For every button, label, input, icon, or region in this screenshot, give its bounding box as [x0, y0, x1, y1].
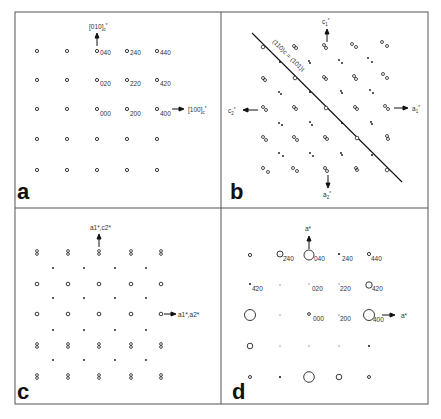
arrow-right-icon	[172, 107, 184, 111]
spot-label: 000	[100, 110, 111, 117]
spot-label: 420	[372, 285, 383, 292]
spot-label: 200	[130, 110, 141, 117]
axis-label-a1: a1*	[412, 105, 420, 114]
spot-label: 400	[373, 316, 384, 323]
panel-c-single-spots	[35, 282, 163, 316]
panel-letter-d: d	[232, 379, 245, 404]
spot-label: 2̄40	[283, 255, 294, 262]
panel-a-spot-labels: 040 240 440 020 220 420 000 200 400	[100, 49, 171, 117]
spot-label: 440	[160, 49, 171, 56]
panel-letter-c: c	[17, 379, 29, 404]
spot-label: 220	[130, 80, 141, 87]
arrow-up-icon	[325, 29, 329, 42]
axis-label-a1-c2: a1*,c2*	[90, 224, 111, 231]
panel-d: 2̄40 040 240 440 4̄20 020 220 420 000 20…	[232, 225, 408, 404]
spot-label: 220	[340, 285, 351, 292]
spot-label: 020	[312, 285, 323, 292]
arrow-up-icon	[97, 234, 101, 247]
panel-a: 040 240 440 020 220 420 000 200 400 [010…	[17, 23, 207, 204]
spot-label: 4̄20	[252, 285, 263, 292]
spot-label: 020	[100, 80, 111, 87]
panel-letter-b: b	[230, 179, 243, 204]
spot-label: 240	[342, 255, 353, 262]
spot-label: 040	[314, 255, 325, 262]
arrow-right-icon	[382, 313, 395, 317]
axis-label-a-star-right: a*	[401, 312, 408, 319]
figure-frame	[15, 12, 428, 404]
arrow-up-icon	[307, 236, 311, 249]
spot-label: 040	[100, 49, 111, 56]
panel-b: (110)c = (101)t	[228, 18, 420, 204]
axis-label-a1-a2: a1*,a2*	[178, 311, 200, 318]
spot-label: 240	[130, 49, 141, 56]
spot-label: 200	[340, 315, 351, 322]
panel-b-line-spots	[261, 45, 389, 172]
spot-label: 000	[313, 315, 324, 322]
arrow-right-icon	[164, 312, 176, 316]
arrow-right-icon	[394, 106, 408, 110]
panel-c: a1*,c2* a1*,a2* c	[17, 224, 200, 404]
axis-label-c1: c1*	[322, 18, 330, 27]
spot-label: 400	[160, 110, 171, 117]
axis-label-c2: c2*	[228, 107, 236, 116]
axis-label-100: [100]c*	[188, 106, 207, 115]
panel-letter-a: a	[17, 179, 30, 204]
spot-label: 440	[371, 255, 382, 262]
spot-label: 420	[160, 80, 171, 87]
panel-c-double-spots-top	[36, 250, 163, 256]
axis-label-a2: a2*	[323, 191, 331, 200]
panel-d-spots	[245, 250, 375, 382]
arrow-down-icon	[326, 175, 330, 188]
diffraction-figure: 040 240 440 020 220 420 000 200 400 [010…	[0, 0, 441, 419]
mirror-line-label: (110)c = (101)t	[271, 38, 307, 74]
axis-label-a-star-up: a*	[305, 225, 312, 232]
arrow-up-icon	[95, 33, 99, 46]
panel-c-double-spots-bottom	[36, 343, 163, 380]
axis-label-010: [010]c*	[89, 23, 108, 32]
arrow-left-icon	[243, 108, 258, 112]
